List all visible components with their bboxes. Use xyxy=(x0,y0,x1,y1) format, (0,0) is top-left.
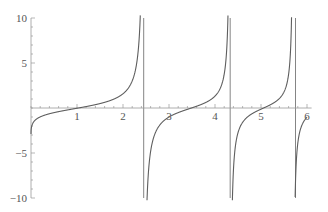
x-tick-label: 2 xyxy=(120,110,126,122)
y-tick-label: 10 xyxy=(16,12,28,24)
y-tick-label: −10 xyxy=(10,192,28,204)
x-axis: 123456 xyxy=(31,104,312,122)
chart: 123456 −10−5510 xyxy=(0,0,328,212)
curve-branch xyxy=(232,17,291,200)
y-tick-label: 5 xyxy=(22,57,28,69)
y-axis: −10−5510 xyxy=(10,12,35,204)
y-tick-label: −5 xyxy=(15,147,27,159)
curve-branch xyxy=(295,117,307,197)
x-tick-label: 1 xyxy=(74,110,80,122)
x-tick-label: 4 xyxy=(212,110,218,122)
x-tick-label: 5 xyxy=(258,110,264,122)
